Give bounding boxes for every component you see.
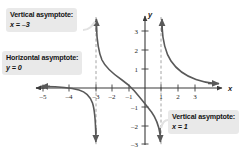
callout-horizontal-asymptote: Horizontal asymptote: y = 0 xyxy=(2,51,82,75)
callout-vertical-asymptote-right: Vertical asymptote: x = 1 xyxy=(168,110,239,134)
rational-function-figure: –5 –4 –3 –2 –1 1 2 3 3 2 1 –1 –2 –3 x y … xyxy=(0,0,239,152)
curve-middle-branch xyxy=(96,26,160,134)
callout-va-left-line2: x = –3 xyxy=(10,20,73,29)
callout-ha-line2: y = 0 xyxy=(6,63,78,72)
x-tick-label-neg3: –3 xyxy=(92,93,101,101)
callout-vertical-asymptote-left: Vertical asymptote: x = –3 xyxy=(6,8,77,32)
x-tick-label-neg4: –4 xyxy=(65,93,74,101)
curve-right-branch xyxy=(162,26,215,84)
x-tick-label-neg2: –2 xyxy=(108,93,117,101)
x-tick-label-neg5: –5 xyxy=(39,93,48,101)
y-tick-label-neg3: –3 xyxy=(130,141,139,149)
y-tick-label-neg2: –2 xyxy=(130,123,139,131)
callout-ha-line1: Horizontal asymptote: xyxy=(6,53,78,62)
x-axis-label: x xyxy=(227,84,233,93)
x-tick-label-neg1: –1 xyxy=(125,93,134,101)
callout-va-right-line1: Vertical asymptote: xyxy=(172,112,235,121)
callout-tail-va-left xyxy=(83,22,95,30)
callout-va-right-line2: x = 1 xyxy=(172,122,235,131)
callout-tail-va-right xyxy=(161,120,168,128)
y-tick-label-2: 2 xyxy=(135,47,139,55)
x-tick-label-2: 2 xyxy=(176,93,180,101)
y-tick-label-1: 1 xyxy=(135,66,139,74)
x-tick-label-3: 3 xyxy=(193,93,197,101)
y-tick-label-3: 3 xyxy=(135,28,139,36)
callout-va-left-line1: Vertical asymptote: xyxy=(10,10,73,19)
y-axis-label: y xyxy=(147,10,153,19)
y-tick-label-neg1: –1 xyxy=(130,104,139,112)
x-tick-label-1: 1 xyxy=(159,93,163,101)
